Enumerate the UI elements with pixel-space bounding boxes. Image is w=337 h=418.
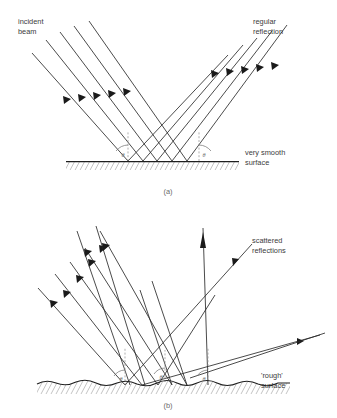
smooth-surface-hatching	[66, 162, 239, 170]
angle-symbol-reflection: θ	[202, 151, 205, 158]
scattered-reflections-label-line2: reflections	[252, 246, 286, 255]
caption-b: (b)	[163, 401, 172, 410]
angle-symbol-rough-1: θ	[119, 375, 122, 382]
rough-surface-label-line1: 'rough'	[261, 371, 283, 380]
angle-symbol-incidence: θ	[121, 151, 124, 158]
incident-beam-label-line1: incident	[18, 17, 43, 26]
panel-a: incident beam regular reflection very sm…	[18, 17, 287, 196]
incident-beam-label-line2: beam	[18, 27, 37, 36]
reflected-rays-smooth	[128, 25, 287, 161]
regular-reflection-label-line1: regular	[253, 17, 277, 26]
panel-b: scattered reflections 'rough' surface	[37, 226, 325, 410]
angle-symbol-rough-2: θ	[159, 373, 162, 380]
caption-a: (a)	[163, 187, 172, 196]
smooth-surface-label-line1: very smooth	[245, 148, 285, 157]
scattered-rays	[125, 228, 325, 385]
reflection-figure: incident beam regular reflection very sm…	[0, 0, 337, 418]
regular-reflection-label-line2: reflection	[253, 27, 283, 36]
incident-rays-smooth	[32, 21, 187, 161]
scattered-reflections-label-line1: scattered	[252, 236, 282, 245]
smooth-surface-label-line2: surface	[245, 158, 269, 167]
